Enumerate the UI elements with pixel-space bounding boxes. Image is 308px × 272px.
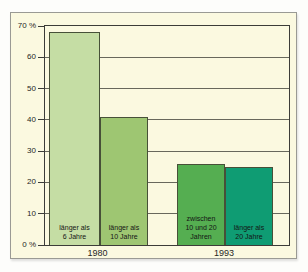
y-axis-label-70: 70 %	[11, 22, 36, 30]
y-axis-tick-0	[38, 245, 44, 246]
bar-label: länger als20 Jahre	[234, 223, 264, 245]
y-axis-tick-70	[38, 26, 44, 27]
y-axis-label-50: 50	[11, 85, 36, 93]
bar-1993-1: länger als20 Jahre	[225, 167, 273, 245]
y-axis-tick-50	[38, 88, 44, 89]
y-axis-label-20: 20	[11, 178, 36, 186]
y-axis-label-40: 40	[11, 116, 36, 124]
y-axis-tick-60	[38, 57, 44, 58]
x-axis-label-1980: 1980	[87, 248, 107, 258]
bar-label: zwischen10 und 20Jahren	[185, 214, 216, 245]
y-axis-label-10: 10	[11, 210, 36, 218]
y-axis-tick-30	[38, 151, 44, 152]
page-background: 70 %6050403020100 %länger als6 Jahreläng…	[0, 0, 308, 272]
chart-card: 70 %6050403020100 %länger als6 Jahreläng…	[10, 12, 297, 259]
bar-label: länger als10 Jahre	[109, 223, 139, 245]
y-axis-tick-40	[38, 119, 44, 120]
x-axis-label-1993: 1993	[214, 248, 234, 258]
plot-area: 70 %6050403020100 %länger als6 Jahreläng…	[44, 25, 290, 246]
y-axis-tick-10	[38, 213, 44, 214]
y-axis-label-0: 0 %	[11, 241, 36, 249]
bar-1980-0: länger als6 Jahre	[49, 32, 100, 245]
bar-1993-0: zwischen10 und 20Jahren	[177, 164, 225, 245]
y-axis-label-30: 30	[11, 147, 36, 155]
y-axis-tick-20	[38, 182, 44, 183]
y-axis-label-60: 60	[11, 53, 36, 61]
bar-1980-1: länger als10 Jahre	[100, 117, 148, 245]
bar-label: länger als6 Jahre	[59, 223, 89, 245]
